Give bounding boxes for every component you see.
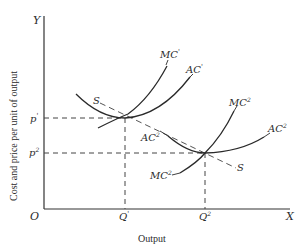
x-axis-letter: X [285,210,295,223]
x-axis-title: Output [138,233,166,244]
ac2-lower-label: AC2 [140,131,160,143]
s-right-label: S [237,162,244,173]
mc1-label: MC' [159,48,180,60]
y-axis-title: Cost and price per unit of output [8,71,19,201]
p1-label: p' [30,112,38,124]
y-axis-letter: Y [33,14,42,27]
ac2-lower-leader [160,131,168,136]
q2-label: Q2 [199,210,211,222]
ac2-curve [168,136,264,153]
mc2-lower-leader [172,173,180,175]
p2-label: p2 [29,146,39,158]
origin-label: O [30,210,39,223]
s-left-label: S [93,95,100,106]
mc1-curve [98,66,167,128]
ac1-label: AC' [185,63,203,75]
mc2-upper-label: MC2 [228,96,251,108]
q1-label: Q' [119,210,129,222]
cost-curves-diagram: Y X O Cost and price per unit of output … [0,0,306,252]
mc1-leader [166,60,168,65]
ac2-upper-label: AC2 [267,122,287,134]
mc2-curve [180,111,234,173]
mc2-lower-label: MC2 [149,169,172,181]
